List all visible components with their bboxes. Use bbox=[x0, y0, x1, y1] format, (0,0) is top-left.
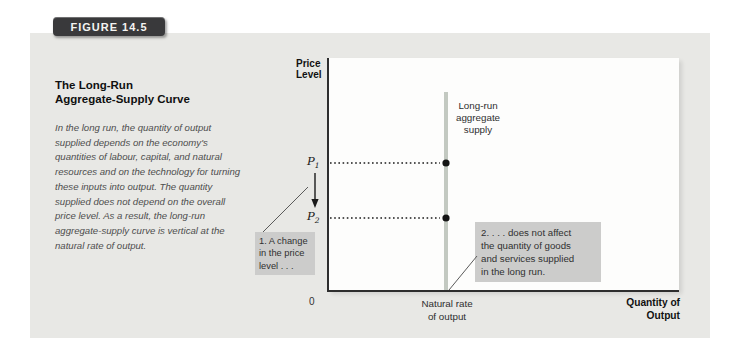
annotation1-line1: 1. A change bbox=[259, 235, 311, 247]
price-point-p1: P1 bbox=[307, 154, 320, 170]
figure-number-label: FIGURE 14.5 bbox=[70, 21, 147, 33]
figure-title-line1: The Long-Run bbox=[55, 79, 255, 93]
annotation2-line1: 2. . . . does not affect bbox=[481, 226, 595, 239]
annotation1-line2: in the price bbox=[259, 247, 311, 259]
textbook-figure-page: FIGURE 14.5 The Long-Run Aggregate-Suppl… bbox=[0, 0, 740, 358]
natural-rate-line1: Natural rate bbox=[404, 297, 490, 310]
x-axis-label-line1: Quantity of bbox=[590, 297, 680, 310]
price-point-p2: P2 bbox=[307, 209, 320, 225]
annotation-price-change: 1. A change in the price level . . . bbox=[255, 232, 315, 275]
y-axis-label: Price Level bbox=[296, 58, 322, 80]
figure-number-badge: FIGURE 14.5 bbox=[53, 17, 165, 36]
natural-rate-label: Natural rate of output bbox=[404, 297, 490, 323]
lras-label-line3: supply bbox=[449, 124, 507, 136]
x-axis-label: Quantity of Output bbox=[590, 297, 680, 322]
figure-caption: In the long run, the quantity of output … bbox=[55, 121, 242, 253]
annotation2-line4: in the long run. bbox=[481, 265, 595, 278]
natural-rate-line2: of output bbox=[404, 310, 490, 323]
annotation2-line2: the quantity of goods bbox=[481, 239, 595, 252]
p2-base: P bbox=[307, 209, 315, 223]
p2-subscript: 2 bbox=[315, 216, 320, 225]
annotation1-line3: level . . . bbox=[259, 260, 311, 272]
x-axis-label-line2: Output bbox=[590, 310, 680, 323]
figure-title-line2: Aggregate-Supply Curve bbox=[55, 93, 255, 107]
p1-base: P bbox=[307, 154, 315, 168]
lras-label-line1: Long-run bbox=[449, 100, 507, 112]
origin-label: 0 bbox=[309, 296, 315, 307]
lras-curve-label: Long-run aggregate supply bbox=[449, 100, 507, 135]
annotation2-line3: and services supplied bbox=[481, 252, 595, 265]
p1-subscript: 1 bbox=[315, 161, 320, 170]
y-axis-label-line2: Level bbox=[296, 69, 322, 80]
lras-label-line2: aggregate bbox=[449, 112, 507, 124]
annotation-no-effect: 2. . . . does not affect the quantity of… bbox=[475, 222, 601, 282]
figure-title: The Long-Run Aggregate-Supply Curve bbox=[55, 79, 255, 106]
y-axis-label-line1: Price bbox=[296, 58, 322, 69]
